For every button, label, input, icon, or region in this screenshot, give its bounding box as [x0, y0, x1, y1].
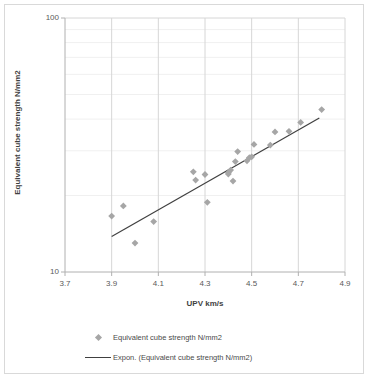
scatter-point [272, 129, 279, 136]
x-tick-label: 4.9 [325, 279, 365, 288]
trendline-exponential [112, 118, 320, 236]
y-tick-label: 10 [25, 267, 59, 276]
legend-item-label: Equivalent cube strength N/mm2 [113, 333, 222, 342]
scatter-point [318, 106, 325, 113]
scatter-point [202, 171, 209, 178]
y-axis-title: Equivalent cube strength N/mm2 [13, 38, 22, 228]
legend-item-trendline: Expon. (Equivalent cube strength N/mm2) [65, 347, 345, 367]
scatter-point [108, 213, 115, 220]
scatter-point [120, 203, 127, 210]
scatter-point [190, 168, 197, 175]
y-tick-label: 100 [25, 13, 59, 22]
x-tick-label: 3.9 [92, 279, 132, 288]
x-tick-label: 4.5 [232, 279, 272, 288]
x-axis-title: UPV km/s [65, 299, 345, 308]
x-tick-label: 3.7 [45, 279, 85, 288]
scatter-point [150, 218, 157, 225]
diamond-marker-icon [83, 335, 113, 340]
legend-item-label: Expon. (Equivalent cube strength N/mm2) [113, 353, 252, 362]
x-tick-label: 4.1 [138, 279, 178, 288]
scatter-point [234, 148, 241, 155]
scatter-point [230, 178, 237, 185]
scatter-point [192, 177, 199, 184]
chart-legend: Equivalent cube strength N/mm2 Expon. (E… [65, 327, 345, 367]
x-tick-label: 4.7 [278, 279, 318, 288]
scatter-point [132, 240, 139, 247]
legend-item-scatter: Equivalent cube strength N/mm2 [65, 327, 345, 347]
line-marker-icon [83, 357, 113, 358]
scatter-chart-canvas [0, 0, 370, 380]
x-tick-label: 4.3 [185, 279, 225, 288]
